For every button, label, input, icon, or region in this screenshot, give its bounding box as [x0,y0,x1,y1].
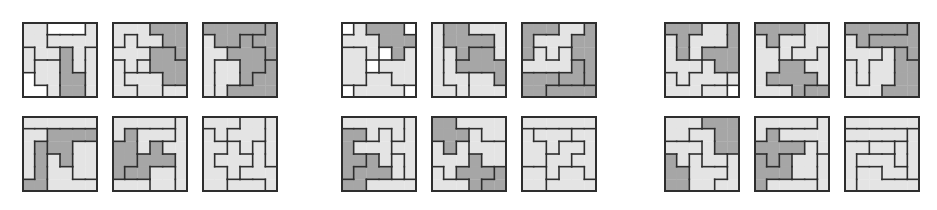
piece-cell [559,141,572,154]
piece-cell [215,35,228,48]
piece-cell [882,141,895,154]
piece-cell [163,35,176,48]
piece-cell [805,47,818,60]
tile-grid [202,116,278,192]
piece-cell [572,167,585,180]
piece-cell [715,60,728,73]
piece-cell [689,60,702,73]
piece-cell [702,47,715,60]
piece-cell [456,129,469,142]
piece-cell [444,73,457,86]
piece-cell [546,73,559,86]
piece-cell [253,60,266,73]
piece-cell [702,154,715,167]
piece-cell [469,60,482,73]
puzzle-tile [22,22,98,98]
piece-cell [715,129,728,142]
piece-cell [715,73,728,86]
piece-cell [572,35,585,48]
tile-grid [754,22,830,98]
piece-cell [677,73,690,86]
piece-cell [379,141,392,154]
piece-cell [456,60,469,73]
piece-cell [546,129,559,142]
piece-cell [482,60,495,73]
piece-cell [779,141,792,154]
piece-cell [805,167,818,180]
piece-cell [137,167,150,180]
piece-cell [767,73,780,86]
piece-cell [482,35,495,48]
piece-cell [392,167,405,180]
piece-cell [227,35,240,48]
piece-cell [253,35,266,48]
piece-cell [869,35,882,48]
piece-cell [792,141,805,154]
piece-cell [767,35,780,48]
piece-cell [35,141,48,154]
tile-grid [521,116,597,192]
piece-cell [546,60,559,73]
tile-grid [112,22,188,98]
piece-cell [392,141,405,154]
piece-cell [677,35,690,48]
piece-cell [392,73,405,86]
piece-cell [125,167,138,180]
puzzle-tile [844,116,920,192]
piece-cell [546,154,559,167]
piece-cell [379,73,392,86]
piece-cell [47,47,60,60]
piece-cell [482,129,495,142]
piece-cell [779,60,792,73]
piece-cell [857,154,870,167]
piece-cell [73,47,86,60]
piece-cell [444,154,457,167]
piece-cell [677,167,690,180]
tile-grid [664,22,740,98]
piece-cell [469,129,482,142]
piece-cell [215,154,228,167]
piece-cell [779,35,792,48]
piece-cell [882,47,895,60]
piece-cell [125,47,138,60]
piece-cell [125,141,138,154]
piece-cell [689,35,702,48]
piece-cell [895,47,908,60]
piece-cell [895,154,908,167]
piece-cell [137,73,150,86]
piece-cell [792,167,805,180]
piece-cell [482,47,495,60]
piece-cell [392,35,405,48]
piece-cell [125,129,138,142]
piece-cell [882,60,895,73]
piece-cell [572,154,585,167]
piece-cell [546,141,559,154]
piece-cell [559,47,572,60]
piece-cell [469,35,482,48]
piece-cell [534,47,547,60]
piece-cell [125,154,138,167]
piece-cell [469,167,482,180]
piece-cell [779,154,792,167]
piece-cell [60,141,73,154]
piece-cell [869,141,882,154]
piece-cell [534,129,547,142]
piece-cell [35,154,48,167]
piece-cell [60,60,73,73]
piece-cell [354,167,367,180]
tile-grid [112,116,188,192]
piece-cell [456,141,469,154]
piece-cell [253,73,266,86]
piece-cell [689,73,702,86]
tile-grid [341,22,417,98]
piece-cell [73,60,86,73]
piece-cell [354,154,367,167]
piece-cell [354,35,367,48]
piece-cell [456,154,469,167]
piece-cell [60,129,73,142]
piece-cell [779,73,792,86]
piece-cell [240,47,253,60]
piece-cell [125,35,138,48]
piece-cell [47,129,60,142]
piece-cell [137,129,150,142]
